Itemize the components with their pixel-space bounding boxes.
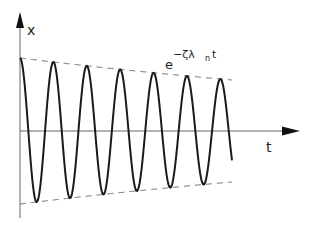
envelope-base: e <box>165 57 173 72</box>
y-axis-arrow-icon <box>16 12 24 28</box>
envelope-exponent: −ζλ <box>173 48 195 61</box>
x-axis-arrow-icon <box>282 127 300 136</box>
envelope-suffix: t <box>212 48 217 61</box>
envelope-subscript: n <box>205 54 210 63</box>
lower-envelope <box>20 182 232 204</box>
y-axis-label: x <box>27 22 35 38</box>
x-axis-label: t <box>266 139 272 155</box>
envelope-label: e −ζλ n t <box>165 48 217 72</box>
damped-sine-curve <box>20 58 232 202</box>
damped-oscillation-diagram: x t e −ζλ n t <box>0 0 313 230</box>
